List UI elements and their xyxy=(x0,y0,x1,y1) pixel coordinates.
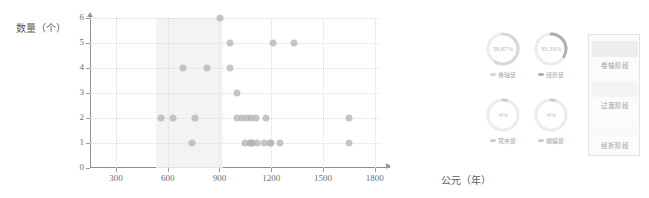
data-point[interactable] xyxy=(192,115,199,122)
x-tick-label: 1200 xyxy=(262,173,280,183)
data-point[interactable] xyxy=(188,140,195,147)
x-axis-arrow-icon xyxy=(386,163,391,169)
legend-swatch-icon xyxy=(490,73,496,76)
y-tick-label: 5 xyxy=(70,37,84,47)
x-tick-label: 300 xyxy=(109,173,123,183)
stage-list: 卷轴阶段过渡阶段经折阶段 xyxy=(588,34,640,156)
x-tick-mark xyxy=(116,168,117,172)
data-point[interactable] xyxy=(252,115,259,122)
gauge-label: 梵夹装 xyxy=(498,136,516,145)
stage-label[interactable]: 卷轴阶段 xyxy=(589,60,641,70)
y-tick-mark xyxy=(86,118,90,119)
scatter-chart: 数量（个） 公元（年） 0123456 30060090012001500180… xyxy=(0,0,470,198)
gauge-legend: 经折装 xyxy=(526,70,576,79)
y-tick-label: 1 xyxy=(70,137,84,147)
y-tick-mark xyxy=(86,93,90,94)
data-point[interactable] xyxy=(233,90,240,97)
y-tick-label: 0 xyxy=(70,162,84,172)
gridline-horizontal xyxy=(90,43,380,44)
data-point[interactable] xyxy=(226,40,233,47)
gridline-vertical xyxy=(168,18,169,168)
gauge-fanjiaben[interactable]: 4%梵夹装 xyxy=(478,96,528,158)
gridline-horizontal xyxy=(90,143,380,144)
y-tick-label: 2 xyxy=(70,112,84,122)
gauge-label: 蝴蝶装 xyxy=(546,136,564,145)
x-tick-mark xyxy=(375,168,376,172)
gauge-legend: 蝴蝶装 xyxy=(526,136,576,145)
gridline-vertical xyxy=(323,18,324,168)
gauge-jingzhezhuang[interactable]: 33.33%经折装 xyxy=(526,30,576,92)
gridline-vertical xyxy=(219,18,220,168)
gauge-percent-label: 33.33% xyxy=(532,30,570,68)
stage-label[interactable]: 经折阶段 xyxy=(589,140,641,150)
gauge-percent-label: 4% xyxy=(532,96,570,134)
stage-color-band xyxy=(592,121,638,137)
legend-panel: 58.67%卷轴装33.33%经折装4%梵夹装4%蝴蝶装 卷轴阶段过渡阶段经折阶… xyxy=(478,30,646,160)
plot-area xyxy=(90,18,380,168)
stage-color-band xyxy=(592,81,638,97)
data-point[interactable] xyxy=(269,40,276,47)
gridline-vertical xyxy=(375,18,376,168)
data-point[interactable] xyxy=(180,65,187,72)
y-axis-title: 数量（个） xyxy=(16,20,66,35)
x-tick-label: 900 xyxy=(213,173,227,183)
data-point[interactable] xyxy=(157,115,164,122)
gridline-horizontal xyxy=(90,18,380,19)
y-tick-label: 3 xyxy=(70,87,84,97)
gauge-hudiezhuang[interactable]: 4%蝴蝶装 xyxy=(526,96,576,158)
data-point[interactable] xyxy=(263,115,270,122)
data-point[interactable] xyxy=(226,65,233,72)
x-tick-label: 600 xyxy=(161,173,175,183)
y-axis-arrow-icon xyxy=(87,12,93,17)
data-point[interactable] xyxy=(268,140,275,147)
gauge-percent-label: 58.67% xyxy=(484,30,522,68)
y-tick-mark xyxy=(86,68,90,69)
legend-swatch-icon xyxy=(538,139,544,142)
gauge-ring-icon: 58.67% xyxy=(484,30,522,68)
data-point[interactable] xyxy=(217,15,224,22)
x-tick-mark xyxy=(168,168,169,172)
data-point[interactable] xyxy=(276,140,283,147)
x-tick-label: 1800 xyxy=(366,173,384,183)
legend-swatch-icon xyxy=(538,73,544,76)
stage-color-band xyxy=(592,41,638,57)
gauge-label: 卷轴装 xyxy=(498,70,516,79)
data-point[interactable] xyxy=(345,115,352,122)
data-point[interactable] xyxy=(204,65,211,72)
gridline-vertical xyxy=(116,18,117,168)
data-point[interactable] xyxy=(345,140,352,147)
stage-label[interactable]: 过渡阶段 xyxy=(589,100,641,110)
x-tick-label: 1500 xyxy=(314,173,332,183)
gauge-legend: 梵夹装 xyxy=(478,136,528,145)
x-tick-mark xyxy=(323,168,324,172)
gauge-ring-icon: 33.33% xyxy=(532,30,570,68)
gauge-ring-icon: 4% xyxy=(484,96,522,134)
y-tick-label: 6 xyxy=(70,12,84,22)
y-tick-mark xyxy=(86,168,90,169)
x-axis-title: 公元（年） xyxy=(441,172,491,187)
legend-swatch-icon xyxy=(490,139,496,142)
x-tick-mark xyxy=(219,168,220,172)
data-point[interactable] xyxy=(290,40,297,47)
gauge-label: 经折装 xyxy=(546,70,564,79)
gauge-legend: 卷轴装 xyxy=(478,70,528,79)
y-tick-mark xyxy=(86,18,90,19)
gauge-juanzhouzhuang[interactable]: 58.67%卷轴装 xyxy=(478,30,528,92)
x-tick-mark xyxy=(271,168,272,172)
gridline-horizontal xyxy=(90,68,380,69)
chart-screenshot: 数量（个） 公元（年） 0123456 30060090012001500180… xyxy=(0,0,649,198)
y-tick-mark xyxy=(86,143,90,144)
y-tick-label: 4 xyxy=(70,62,84,72)
data-point[interactable] xyxy=(169,115,176,122)
gauge-percent-label: 4% xyxy=(484,96,522,134)
y-tick-mark xyxy=(86,43,90,44)
gauge-ring-icon: 4% xyxy=(532,96,570,134)
gauge-grid: 58.67%卷轴装33.33%经折装4%梵夹装4%蝴蝶装 xyxy=(478,30,578,160)
